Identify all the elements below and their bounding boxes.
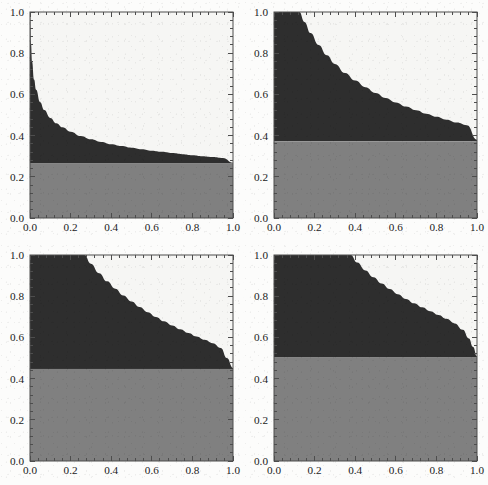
panel-bottom-left: 0.00.20.40.60.81.00.00.20.40.60.81.0 (0, 243, 244, 485)
x-tick-label: 0.6 (389, 464, 403, 476)
x-tick-label: 0.2 (64, 464, 78, 476)
x-tick-label: 0.0 (267, 221, 281, 233)
plot-area-2: 0.00.20.40.60.81.00.00.20.40.60.81.0 (0, 243, 244, 485)
x-tick-label: 1.0 (226, 464, 240, 476)
y-tick-label: 0.2 (254, 414, 268, 426)
y-tick-labels: 0.00.20.40.60.81.0 (10, 6, 24, 224)
y-tick-label: 0.2 (10, 414, 24, 426)
x-tick-label: 0.6 (389, 221, 403, 233)
panel-top-right: 0.00.20.40.60.81.00.00.20.40.60.81.0 (244, 0, 488, 242)
x-tick-label: 0.2 (308, 464, 322, 476)
plot-area-3: 0.00.20.40.60.81.00.00.20.40.60.81.0 (244, 243, 488, 485)
y-tick-labels: 0.00.20.40.60.81.0 (10, 249, 24, 467)
y-tick-label: 0.8 (254, 47, 268, 59)
y-tick-label: 0.4 (10, 130, 24, 142)
x-tick-label: 1.0 (226, 221, 240, 233)
panel-top-left: 0.00.20.40.60.81.00.00.20.40.60.81.0 (0, 0, 244, 242)
x-tick-label: 0.8 (429, 464, 443, 476)
x-tick-label: 1.0 (470, 221, 484, 233)
x-tick-label: 0.8 (185, 221, 199, 233)
x-tick-label: 0.0 (23, 221, 37, 233)
y-tick-label: 0.8 (10, 290, 24, 302)
x-tick-label: 0.6 (145, 221, 159, 233)
plot-area-0: 0.00.20.40.60.81.00.00.20.40.60.81.0 (0, 0, 244, 242)
plot-area-1: 0.00.20.40.60.81.00.00.20.40.60.81.0 (244, 0, 488, 242)
y-tick-label: 0.4 (254, 373, 268, 385)
figure-canvas: 0.00.20.40.60.81.00.00.20.40.60.81.00.00… (0, 0, 488, 485)
y-tick-labels: 0.00.20.40.60.81.0 (254, 249, 268, 467)
y-tick-label: 0.4 (254, 130, 268, 142)
x-tick-label: 0.4 (104, 464, 118, 476)
y-tick-label: 0.0 (10, 455, 24, 467)
x-tick-label: 0.0 (267, 464, 281, 476)
y-tick-label: 0.2 (254, 171, 268, 183)
y-tick-label: 0.0 (10, 212, 24, 224)
x-tick-label: 1.0 (470, 464, 484, 476)
x-tick-label: 0.0 (23, 464, 37, 476)
y-tick-label: 0.6 (10, 88, 24, 100)
y-tick-label: 0.8 (254, 290, 268, 302)
y-tick-label: 0.4 (10, 373, 24, 385)
panel-bottom-right: 0.00.20.40.60.81.00.00.20.40.60.81.0 (244, 243, 488, 485)
y-tick-label: 1.0 (10, 249, 24, 261)
x-tick-label: 0.2 (64, 221, 78, 233)
x-tick-labels: 0.00.20.40.60.81.0 (23, 464, 240, 476)
x-tick-label: 0.8 (429, 221, 443, 233)
x-tick-label: 0.4 (348, 221, 362, 233)
y-tick-label: 0.2 (10, 171, 24, 183)
y-tick-label: 1.0 (254, 249, 268, 261)
y-tick-label: 0.6 (10, 331, 24, 343)
x-tick-labels: 0.00.20.40.60.81.0 (267, 221, 484, 233)
gray-band-fill (274, 141, 477, 218)
y-tick-labels: 0.00.20.40.60.81.0 (254, 6, 268, 224)
x-tick-label: 0.6 (145, 464, 159, 476)
x-tick-label: 0.4 (348, 464, 362, 476)
y-tick-label: 0.6 (254, 88, 268, 100)
gray-band-fill (274, 357, 477, 461)
x-tick-label: 0.8 (185, 464, 199, 476)
y-tick-label: 0.0 (254, 212, 268, 224)
gray-band-fill (30, 369, 233, 461)
x-tick-label: 0.4 (104, 221, 118, 233)
y-tick-label: 0.6 (254, 331, 268, 343)
gray-band-fill (30, 163, 233, 218)
y-tick-label: 0.0 (254, 455, 268, 467)
y-tick-label: 1.0 (10, 6, 24, 18)
x-tick-labels: 0.00.20.40.60.81.0 (23, 221, 240, 233)
x-tick-label: 0.2 (308, 221, 322, 233)
y-tick-label: 1.0 (254, 6, 268, 18)
y-tick-label: 0.8 (10, 47, 24, 59)
x-tick-labels: 0.00.20.40.60.81.0 (267, 464, 484, 476)
